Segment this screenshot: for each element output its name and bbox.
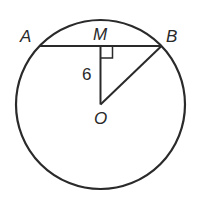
- label-mo-length: 6: [82, 65, 91, 84]
- label-b: B: [166, 27, 177, 46]
- label-o: O: [94, 109, 107, 128]
- label-a: A: [19, 27, 31, 46]
- right-angle-marker: [101, 46, 113, 58]
- label-m: M: [93, 25, 108, 44]
- diagram-canvas: A M B O 6: [0, 0, 200, 201]
- segment-bo: [101, 46, 162, 105]
- circle-diagram: A M B O 6: [0, 0, 200, 201]
